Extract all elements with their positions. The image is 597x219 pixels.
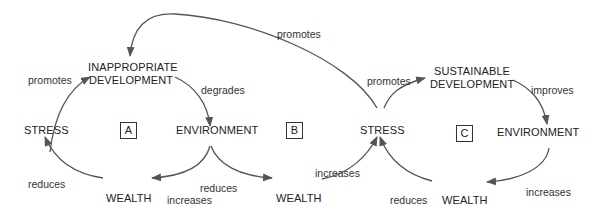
- node-inappropriate-development-line1: INAPPROPRIATE: [88, 61, 174, 74]
- label-stress-b-to-inappropriate: promotes: [277, 28, 321, 40]
- edge-environment-c-to-wealth-c: [487, 148, 549, 182]
- node-stress-a: STRESS: [24, 124, 69, 137]
- label-wealth-b-to-stress-b: increases: [315, 167, 360, 179]
- label-stress-to-inappropriate: promotes: [28, 74, 72, 86]
- label-stress-b-to-sustainable: promotes: [367, 75, 411, 87]
- label-wealth-c-to-stress-b: reduces: [390, 194, 427, 206]
- feedback-loop-diagram: INAPPROPRIATE DEVELOPMENT STRESS ENVIRON…: [0, 0, 597, 219]
- loop-label-b: B: [286, 122, 303, 139]
- node-sustainable-development: SUSTAINABLE DEVELOPMENT: [430, 65, 514, 91]
- node-wealth-a: WEALTH: [106, 192, 152, 205]
- label-wealth-to-stress-a: reduces: [28, 178, 65, 190]
- label-environment-c-to-wealth-c: increases: [526, 186, 571, 198]
- node-environment-c: ENVIRONMENT: [497, 126, 579, 139]
- loop-label-c: C: [456, 125, 473, 142]
- edge-wealth-to-stress-a: [45, 137, 103, 178]
- edge-environment-to-wealth-b: [211, 146, 272, 178]
- node-environment-a: ENVIRONMENT: [176, 124, 258, 137]
- label-inappropriate-to-environment: degrades: [201, 84, 245, 96]
- label-environment-to-wealth-b: reduces: [200, 182, 237, 194]
- node-stress-b: STRESS: [360, 124, 405, 137]
- label-sustainable-to-environment: improves: [531, 84, 574, 96]
- loop-label-a: A: [120, 122, 137, 139]
- edge-environment-to-wealth-a: [152, 146, 210, 178]
- node-sustainable-development-line2: DEVELOPMENT: [430, 78, 514, 91]
- node-inappropriate-development-line2: DEVELOPMENT: [88, 74, 174, 87]
- edge-stress-to-inappropriate: [50, 77, 90, 152]
- label-environment-to-wealth-a: increases: [167, 194, 212, 206]
- node-sustainable-development-line1: SUSTAINABLE: [430, 65, 514, 78]
- node-wealth-b: WEALTH: [276, 192, 322, 205]
- edge-wealth-c-to-stress-b: [380, 137, 432, 181]
- node-inappropriate-development: INAPPROPRIATE DEVELOPMENT: [88, 61, 174, 87]
- node-wealth-c: WEALTH: [442, 194, 488, 207]
